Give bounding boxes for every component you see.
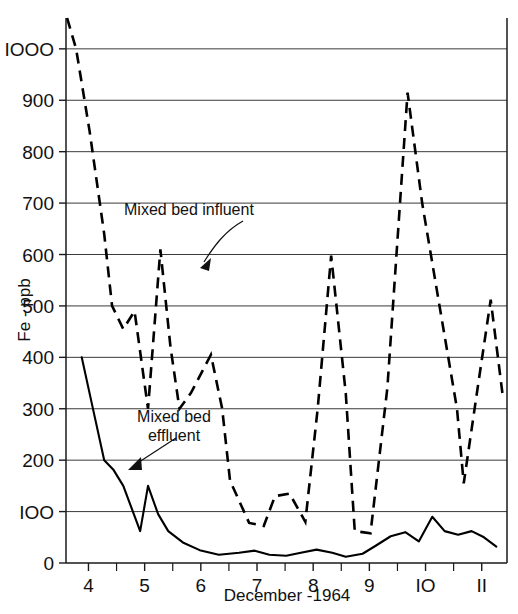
influent-label-leader-line bbox=[204, 221, 243, 262]
y-tick-label-700: 700 bbox=[22, 193, 54, 214]
x-tick-label-6: 6 bbox=[196, 575, 207, 596]
data-series-group bbox=[67, 18, 503, 557]
y-tick-label-600: 600 bbox=[22, 245, 54, 266]
y-tick-label-0: 0 bbox=[43, 553, 54, 574]
gridlines bbox=[66, 49, 507, 512]
x-tick-label-9: 9 bbox=[364, 575, 375, 596]
y-tick-label-400: 400 bbox=[22, 347, 54, 368]
axes bbox=[66, 18, 507, 563]
influent-label-line-0: Mixed bed influent bbox=[124, 201, 254, 218]
y-tick-label-200: 200 bbox=[22, 450, 54, 471]
y-tick-label-100: IOO bbox=[19, 502, 54, 523]
figure-container: 0IOO200300400500600700800900IOOO 456789I… bbox=[0, 0, 518, 614]
effluent-label-line-0: Mixed bed bbox=[137, 408, 211, 425]
y-tick-label-900: 900 bbox=[22, 90, 54, 111]
y-tick-label-1000: IOOO bbox=[4, 39, 54, 60]
effluent-label-arrowhead-icon bbox=[128, 457, 142, 470]
x-tick-label-10: IO bbox=[416, 575, 436, 596]
annotations-group: Mixed bed influentMixed bedeffluent bbox=[124, 201, 254, 470]
y-tick-label-300: 300 bbox=[22, 399, 54, 420]
x-axis-title: December -1964 bbox=[224, 586, 351, 605]
y-axis-title: Fe - ppb bbox=[15, 278, 34, 341]
x-tick-label-11: II bbox=[476, 575, 487, 596]
y-tick-label-800: 800 bbox=[22, 142, 54, 163]
effluent-label-line-1: effluent bbox=[148, 427, 201, 444]
y-axis-ticks: 0IOO200300400500600700800900IOOO bbox=[4, 39, 66, 574]
iron-concentration-line-chart: 0IOO200300400500600700800900IOOO 456789I… bbox=[0, 0, 518, 614]
series-line-mixed-bed-influent bbox=[67, 18, 503, 533]
x-tick-label-5: 5 bbox=[139, 575, 150, 596]
x-tick-label-4: 4 bbox=[83, 575, 94, 596]
